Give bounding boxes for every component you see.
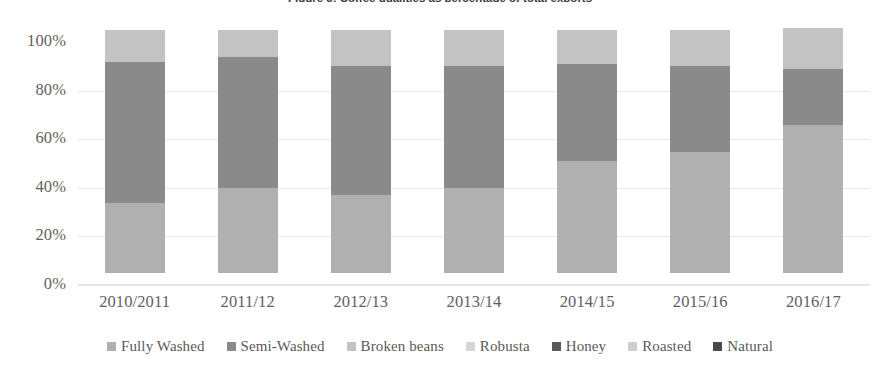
plot-area — [78, 42, 870, 285]
bar-segment[interactable] — [105, 203, 165, 273]
x-tick-label: 2013/14 — [417, 290, 530, 316]
column-group — [304, 30, 417, 285]
stacked-bar[interactable] — [331, 30, 391, 273]
stacked-bar[interactable] — [105, 30, 165, 273]
bar-columns — [78, 30, 870, 285]
y-tick-label: 40% — [35, 179, 66, 195]
bar-segment[interactable] — [218, 30, 278, 57]
stacked-bar[interactable] — [218, 30, 278, 273]
column-group — [78, 30, 191, 285]
column-group — [757, 30, 870, 285]
legend-item[interactable]: Roasted — [628, 338, 691, 354]
bar-segment[interactable] — [218, 188, 278, 273]
legend-item[interactable]: Honey — [552, 338, 607, 354]
legend-label: Semi-Washed — [241, 338, 325, 354]
bar-segment[interactable] — [444, 30, 504, 66]
legend-swatch-icon — [466, 342, 475, 351]
bar-segment[interactable] — [557, 64, 617, 161]
stacked-bar[interactable] — [444, 30, 504, 273]
x-tick-label: 2014/15 — [531, 290, 644, 316]
bar-segment[interactable] — [670, 152, 730, 274]
stacked-bar[interactable] — [783, 28, 843, 273]
legend-label: Roasted — [642, 338, 691, 354]
stacked-bar[interactable] — [557, 30, 617, 273]
bar-segment[interactable] — [218, 57, 278, 188]
x-axis: 2010/20112011/122012/132013/142014/15201… — [78, 290, 870, 316]
bar-segment[interactable] — [444, 66, 504, 188]
bar-segment[interactable] — [670, 30, 730, 66]
bar-segment[interactable] — [331, 30, 391, 66]
chart-area: 100%80%60%40%20%0% 2010/20112011/122012/… — [0, 24, 880, 314]
legend-label: Honey — [566, 338, 607, 354]
y-tick-label: 0% — [44, 276, 66, 292]
bar-segment[interactable] — [444, 188, 504, 273]
y-tick-label: 60% — [35, 130, 66, 146]
x-tick-label: 2010/2011 — [78, 290, 191, 316]
y-tick-label: 100% — [27, 33, 66, 49]
figure-title: Figure 3: Coffee qualities as percentage… — [0, 0, 880, 2]
bar-segment[interactable] — [331, 195, 391, 273]
legend-label: Natural — [727, 338, 773, 354]
legend-item[interactable]: Broken beans — [347, 338, 444, 354]
legend-swatch-icon — [227, 342, 236, 351]
y-tick-label: 20% — [35, 227, 66, 243]
legend-item[interactable]: Fully Washed — [107, 338, 204, 354]
legend-label: Broken beans — [361, 338, 444, 354]
stacked-bar[interactable] — [670, 30, 730, 273]
x-tick-label: 2016/17 — [757, 290, 870, 316]
legend-item[interactable]: Robusta — [466, 338, 530, 354]
column-group — [417, 30, 530, 285]
x-tick-label: 2015/16 — [644, 290, 757, 316]
legend-swatch-icon — [347, 342, 356, 351]
bar-segment[interactable] — [557, 30, 617, 64]
column-group — [644, 30, 757, 285]
bar-segment[interactable] — [783, 28, 843, 69]
bar-segment[interactable] — [105, 30, 165, 62]
x-tick-label: 2011/12 — [191, 290, 304, 316]
y-axis: 100%80%60%40%20%0% — [0, 24, 72, 314]
gridline — [78, 285, 870, 286]
y-tick-label: 80% — [35, 82, 66, 98]
legend-label: Fully Washed — [121, 338, 204, 354]
legend-swatch-icon — [107, 342, 116, 351]
legend-item[interactable]: Natural — [713, 338, 773, 354]
legend-swatch-icon — [628, 342, 637, 351]
column-group — [191, 30, 304, 285]
legend-item[interactable]: Semi-Washed — [227, 338, 325, 354]
bar-segment[interactable] — [557, 161, 617, 273]
bar-segment[interactable] — [783, 69, 843, 125]
legend-label: Robusta — [480, 338, 530, 354]
bar-segment[interactable] — [331, 66, 391, 195]
bar-segment[interactable] — [670, 66, 730, 151]
bar-segment[interactable] — [105, 62, 165, 203]
column-group — [531, 30, 644, 285]
x-tick-label: 2012/13 — [304, 290, 417, 316]
legend-swatch-icon — [713, 342, 722, 351]
chart-legend: Fully WashedSemi-WashedBroken beansRobus… — [0, 334, 880, 358]
bar-segment[interactable] — [783, 125, 843, 273]
legend-swatch-icon — [552, 342, 561, 351]
